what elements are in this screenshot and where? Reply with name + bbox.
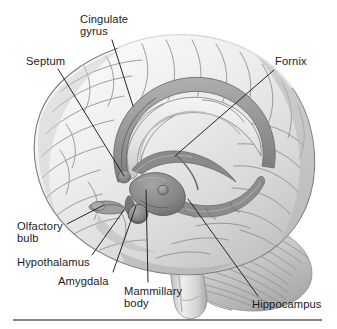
label-amygdala-line-1: Amygdala	[58, 275, 109, 287]
label-cingulate-gyrus-line-1: Cingulate	[80, 13, 128, 25]
label-hippocampus: Hippocampus	[252, 298, 322, 310]
brain-limbic-system-figure: CingulategyrusSeptumFornixOlfactorybulbH…	[0, 0, 337, 329]
label-mammillary-body-line-1: Mammillary	[124, 285, 182, 297]
septum-structure	[118, 171, 131, 183]
label-amygdala: Amygdala	[58, 275, 109, 287]
label-hypothalamus-line-1: Hypothalamus	[17, 256, 90, 268]
label-mammillary-body-line-2: body	[124, 297, 149, 309]
mammillary-body-structure	[158, 185, 168, 195]
label-hippocampus-line-1: Hippocampus	[252, 298, 322, 310]
label-fornix: Fornix	[275, 55, 307, 67]
label-septum-line-1: Septum	[26, 55, 65, 67]
brain-illustration	[0, 0, 337, 329]
label-cingulate-gyrus-line-2: gyrus	[80, 25, 108, 37]
label-mammillary-body: Mammillarybody	[124, 285, 182, 310]
label-olfactory-bulb-line-2: bulb	[17, 232, 39, 244]
label-fornix-line-1: Fornix	[275, 55, 307, 67]
label-olfactory-bulb: Olfactorybulb	[17, 220, 63, 245]
label-hypothalamus: Hypothalamus	[17, 256, 90, 268]
label-olfactory-bulb-line-1: Olfactory	[17, 220, 63, 232]
label-septum: Septum	[26, 55, 65, 67]
label-cingulate-gyrus: Cingulategyrus	[80, 13, 128, 38]
